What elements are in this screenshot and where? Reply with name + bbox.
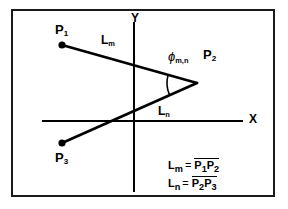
legend-ln-sub: n: [175, 183, 181, 193]
figure-canvas: Y X P1 P2 P3 Lm Ln ϕm,n Lm = P1P2 Ln = P…: [0, 0, 288, 209]
angle-arc: [167, 75, 170, 95]
legend-lm-base: L: [168, 159, 175, 171]
x-axis-label: X: [249, 113, 257, 125]
point-dot-p3: [58, 139, 65, 146]
point-label-p2-base: P: [203, 47, 212, 62]
segment-label-lm: Lm: [101, 34, 115, 46]
legend-ln-base: L: [168, 177, 175, 189]
segment-label-lm-sub: m: [108, 39, 115, 48]
segment-ln: [62, 83, 197, 143]
point-label-p2: P2: [203, 48, 216, 61]
legend-lm-rhs-2-base: P: [207, 159, 214, 171]
legend-ln-rhs-2-sub: 3: [212, 183, 217, 193]
legend-lm-rhs: P1P2: [194, 158, 219, 174]
legend-ln-equals: =: [182, 177, 188, 189]
segment-label-ln: Ln: [158, 105, 170, 117]
y-axis-label: Y: [131, 12, 139, 24]
legend-ln-rhs-2-base: P: [204, 177, 211, 189]
legend-box: Lm = P1P2 Ln = P2P3: [168, 158, 219, 195]
segment-label-ln-sub: n: [165, 110, 170, 119]
legend-ln-rhs: P2P3: [192, 176, 217, 192]
legend-lm-lhs: Lm: [168, 159, 183, 174]
point-label-p3-base: P: [55, 150, 64, 165]
point-label-p1-base: P: [55, 22, 64, 37]
point-label-p1-sub: 1: [64, 29, 68, 38]
legend-ln-lhs: Ln: [168, 177, 180, 192]
legend-lm-rhs-1-base: P: [194, 159, 201, 171]
diagram-svg: [0, 0, 288, 209]
point-label-p2-sub: 2: [212, 54, 216, 63]
legend-lm-equals: =: [185, 159, 191, 171]
angle-label-sub: m,n: [175, 56, 188, 65]
angle-label-phi: ϕm,n: [168, 50, 188, 63]
legend-row-lm: Lm = P1P2: [168, 158, 219, 174]
point-dot-p1: [58, 41, 65, 48]
legend-lm-sub: m: [175, 164, 183, 174]
legend-row-ln: Ln = P2P3: [168, 176, 219, 192]
point-label-p1: P1: [55, 23, 68, 36]
legend-ln-rhs-1-base: P: [192, 177, 199, 189]
point-label-p3: P3: [55, 151, 68, 164]
legend-lm-rhs-2-sub: 2: [214, 164, 219, 174]
point-label-p3-sub: 3: [64, 157, 68, 166]
